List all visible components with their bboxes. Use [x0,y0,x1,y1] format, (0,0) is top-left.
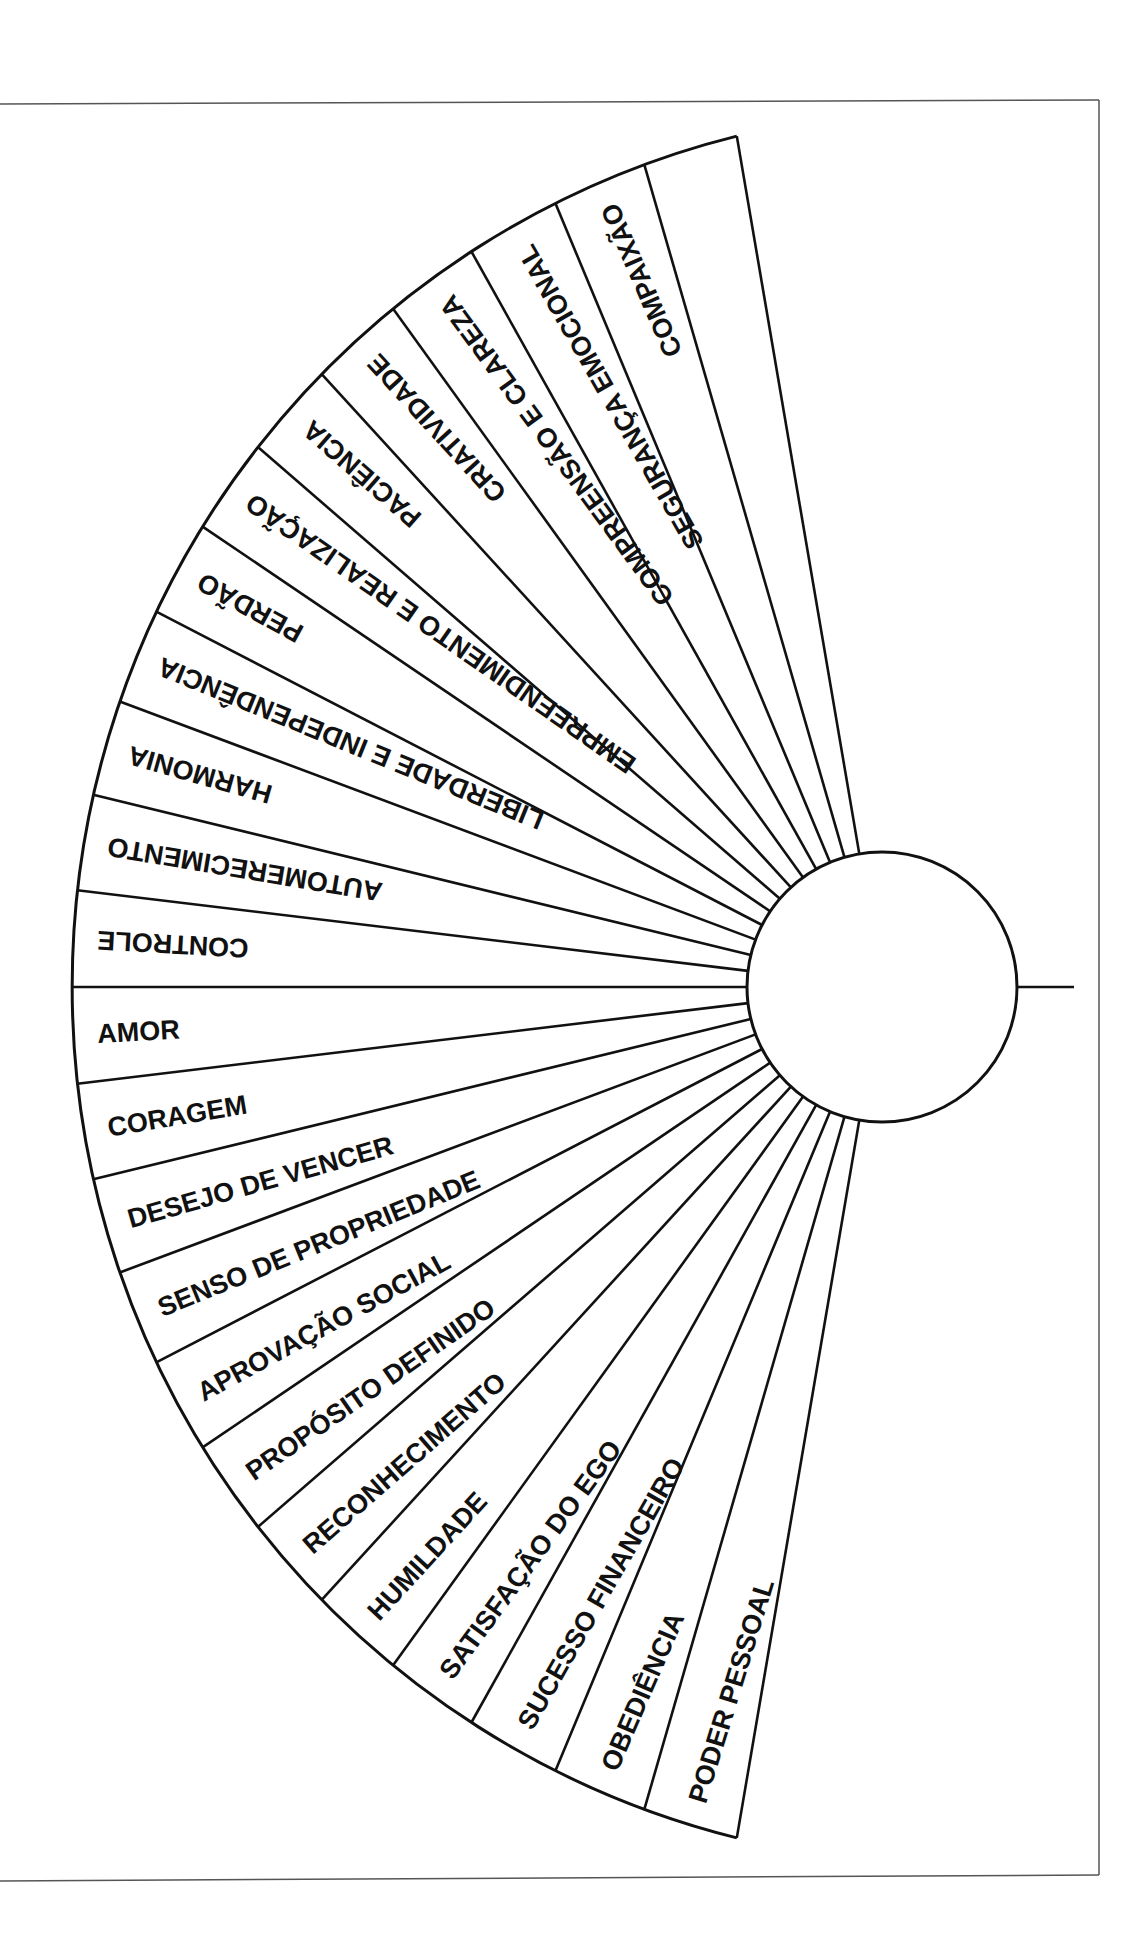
segment-label: CORAGEM [105,1090,249,1143]
fan-diagram: COMPAIXÃOSEGURANÇA EMOCIONALCOMPREENSÃO … [0,0,1132,1956]
frame-bottom-line [0,1875,1099,1881]
segment-label: COMPAIXÃO [594,199,688,362]
fan-rib [737,1120,860,1838]
segment-label: CONTROLE [96,925,249,963]
segment-label: PERDÃO [192,567,308,649]
fan-rib [120,1034,756,1272]
segment-label: PACIÊNCIA [296,414,427,534]
segment-label: HUMILDADE [362,1486,494,1626]
fan-ribs [72,136,859,1838]
fan-hub [747,852,1074,1122]
segment-label: RECONHECIMENTO [297,1367,512,1560]
hub-circle [747,852,1017,1122]
fan-rib [737,136,860,854]
frame-top-line [0,100,1099,104]
fan-wheel-svg: COMPAIXÃOSEGURANÇA EMOCIONALCOMPREENSÃO … [0,0,1132,1956]
fan-rib [555,1112,830,1771]
segment-label: PROPÓSITO DEFINIDO [240,1292,501,1487]
fan-rib [258,1075,780,1527]
segment-label: PODER PESSOAL [683,1575,780,1806]
segment-label: AUTOMERECIMENTO [105,831,384,906]
segment-label: AMOR [96,1015,180,1050]
segment-label: SUCESSO FINANCEIRO [512,1453,691,1735]
fan-rib [120,702,756,940]
segment-labels: COMPAIXÃOSEGURANÇA EMOCIONALCOMPREENSÃO … [96,199,780,1807]
segment-label: OBEDIÊNCIA [594,1607,690,1775]
segment-label: SATISFAÇÃO DO EGO [433,1434,628,1684]
